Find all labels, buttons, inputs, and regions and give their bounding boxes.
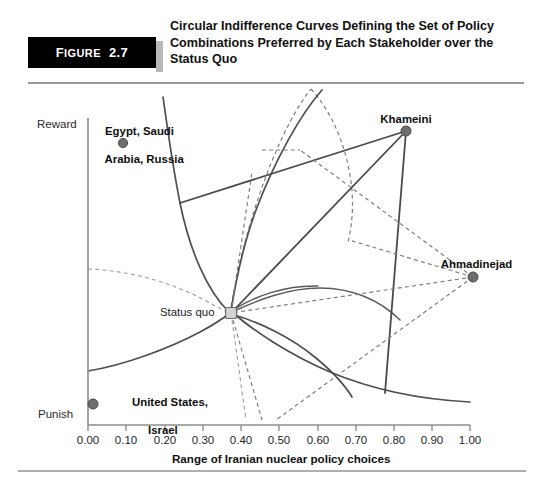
- line-ahmadinejad-to-lower-left: [276, 277, 473, 420]
- curve-egypt-saudi-russia-upper-right: [311, 89, 352, 242]
- x-tick-label-4: 0.40: [221, 434, 261, 446]
- marker-status-quo[interactable]: [226, 308, 237, 319]
- x-axis-title: Range of Iranian nuclear policy choices: [172, 452, 390, 465]
- chart-plot-area: Reward Punish 0.00 0.10 0.20 0.30 0.40 0…: [0, 0, 542, 491]
- curve-us-israel: [88, 313, 230, 371]
- x-tick-label-7: 0.70: [336, 434, 376, 446]
- marker-khameini[interactable]: [401, 126, 411, 136]
- y-axis-reward-label: Reward: [37, 118, 77, 130]
- line-status-quo-down: [231, 313, 262, 420]
- label-us-line1: United States,: [132, 396, 208, 408]
- label-egypt-saudi-russia: Egypt, Saudi Arabia, Russia: [86, 110, 161, 180]
- footer-divider: [18, 470, 526, 472]
- label-egypt-line2: Arabia, Russia: [105, 153, 184, 165]
- x-tick-label-0: 0.00: [68, 434, 108, 446]
- label-egypt-line1: Egypt, Saudi: [105, 125, 174, 137]
- x-tick-label-6: 0.60: [298, 434, 338, 446]
- x-tick-label-5: 0.50: [259, 434, 299, 446]
- x-tick-label-9: 0.90: [412, 434, 452, 446]
- label-us-israel: United States, Israel: [113, 381, 205, 451]
- marker-us-israel[interactable]: [88, 399, 98, 409]
- curve-khameini: [231, 90, 322, 311]
- label-status-quo: Status quo: [160, 306, 214, 318]
- label-us-line2: Israel: [132, 423, 178, 437]
- x-tick-label-10: 1.00: [450, 434, 490, 446]
- x-tick-label-8: 0.80: [374, 434, 414, 446]
- line-ahmadinejad-to-status-quo: [231, 277, 473, 313]
- label-ahmadinejad: Ahmadinejad: [434, 257, 519, 271]
- chart-svg: [0, 0, 542, 491]
- label-khameini: Khameini: [370, 112, 442, 126]
- line-status-quo-down-light: [231, 313, 246, 420]
- line-khameini-vertical: [385, 131, 406, 393]
- figure-container: FIGURE 2.7 Circular Indifference Curves …: [0, 0, 542, 491]
- y-axis-punish-label: Punish: [38, 408, 73, 420]
- marker-ahmadinejad[interactable]: [468, 272, 478, 282]
- curve-ahmadinejad: [232, 288, 400, 320]
- curve-khameini-lower: [231, 311, 470, 402]
